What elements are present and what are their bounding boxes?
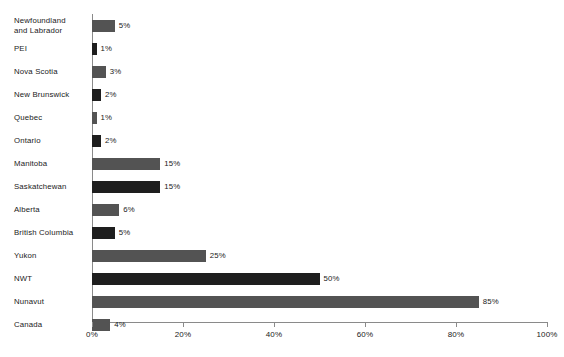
category-label: NWT bbox=[14, 267, 88, 290]
bar-value-label: 4% bbox=[114, 320, 126, 329]
table-row: Alberta6% bbox=[0, 198, 564, 221]
x-axis-tick bbox=[547, 322, 548, 327]
x-axis-tick-label: 80% bbox=[448, 330, 465, 339]
bar-value-label: 3% bbox=[110, 67, 122, 76]
bar bbox=[92, 319, 110, 331]
bar-value-label: 5% bbox=[119, 228, 131, 237]
table-row: British Columbia5% bbox=[0, 221, 564, 244]
table-row: Quebec1% bbox=[0, 106, 564, 129]
bar-value-label: 85% bbox=[483, 297, 499, 306]
bar bbox=[92, 273, 320, 285]
bar-value-label: 1% bbox=[101, 44, 113, 53]
bar-group: 3% bbox=[92, 60, 121, 83]
category-label: Alberta bbox=[14, 198, 88, 221]
x-axis-tick-label: 60% bbox=[357, 330, 374, 339]
bar bbox=[92, 250, 206, 262]
bar-group: 5% bbox=[92, 221, 130, 244]
x-axis-tick-label: 20% bbox=[175, 330, 192, 339]
bar-group: 50% bbox=[92, 267, 340, 290]
bar-group: 25% bbox=[92, 244, 226, 267]
bar-group: 2% bbox=[92, 129, 117, 152]
table-row: New Brunswick2% bbox=[0, 83, 564, 106]
table-row: PEI1% bbox=[0, 37, 564, 60]
bar-group: 5% bbox=[92, 14, 130, 37]
x-axis-tick bbox=[183, 322, 184, 327]
bar-value-label: 2% bbox=[105, 136, 117, 145]
category-label: New Brunswick bbox=[14, 83, 88, 106]
table-row: Nunavut85% bbox=[0, 290, 564, 313]
table-row: Ontario2% bbox=[0, 129, 564, 152]
bar bbox=[92, 296, 479, 308]
x-axis-tick-label: 40% bbox=[266, 330, 283, 339]
bar-group: 2% bbox=[92, 83, 117, 106]
table-row: Manitoba15% bbox=[0, 152, 564, 175]
bar-value-label: 25% bbox=[210, 251, 226, 260]
category-label: Nova Scotia bbox=[14, 60, 88, 83]
category-label: Nunavut bbox=[14, 290, 88, 313]
bar-value-label: 5% bbox=[119, 21, 131, 30]
table-row: Newfoundland and Labrador5% bbox=[0, 14, 564, 37]
bar-value-label: 2% bbox=[105, 90, 117, 99]
bar-value-label: 15% bbox=[164, 159, 180, 168]
x-axis-tick bbox=[456, 322, 457, 327]
bar bbox=[92, 112, 97, 124]
bar bbox=[92, 43, 97, 55]
bar-group: 1% bbox=[92, 37, 112, 60]
bar-value-label: 15% bbox=[164, 182, 180, 191]
bar-group: 6% bbox=[92, 198, 135, 221]
x-axis-tick bbox=[274, 322, 275, 327]
category-label: Yukon bbox=[14, 244, 88, 267]
category-label: PEI bbox=[14, 37, 88, 60]
category-label: Newfoundland and Labrador bbox=[14, 14, 88, 37]
category-label: Ontario bbox=[14, 129, 88, 152]
category-label: Quebec bbox=[14, 106, 88, 129]
bar bbox=[92, 20, 115, 32]
bar bbox=[92, 135, 101, 147]
bar-chart: Newfoundland and Labrador5%PEI1%Nova Sco… bbox=[0, 0, 564, 357]
bar-value-label: 50% bbox=[324, 274, 340, 283]
category-label: Saskatchewan bbox=[14, 175, 88, 198]
x-axis-tick bbox=[92, 322, 93, 327]
bar-group: 1% bbox=[92, 106, 112, 129]
bar-group: 15% bbox=[92, 152, 180, 175]
bar bbox=[92, 181, 160, 193]
table-row: Saskatchewan15% bbox=[0, 175, 564, 198]
bar-value-label: 1% bbox=[101, 113, 113, 122]
bar bbox=[92, 204, 119, 216]
table-row: Nova Scotia3% bbox=[0, 60, 564, 83]
table-row: NWT50% bbox=[0, 267, 564, 290]
category-label: Manitoba bbox=[14, 152, 88, 175]
plot-area: Newfoundland and Labrador5%PEI1%Nova Sco… bbox=[0, 0, 564, 357]
bar-group: 15% bbox=[92, 175, 180, 198]
category-label: British Columbia bbox=[14, 221, 88, 244]
bar bbox=[92, 158, 160, 170]
x-axis-tick bbox=[365, 322, 366, 327]
category-label: Canada bbox=[14, 313, 88, 336]
bar bbox=[92, 66, 106, 78]
bar-value-label: 6% bbox=[123, 205, 135, 214]
x-axis-tick-label: 100% bbox=[536, 330, 557, 339]
table-row: Yukon25% bbox=[0, 244, 564, 267]
x-axis-tick-label: 0% bbox=[86, 330, 98, 339]
bar bbox=[92, 89, 101, 101]
bar-group: 85% bbox=[92, 290, 499, 313]
bar bbox=[92, 227, 115, 239]
